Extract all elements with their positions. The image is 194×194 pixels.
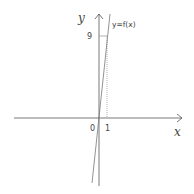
y-axis-label: y xyxy=(77,11,85,25)
y-tick-label: 9 xyxy=(87,32,92,41)
x-tick-label: 1 xyxy=(105,124,110,133)
origin-label: 0 xyxy=(90,124,95,133)
graph-canvas: y x 0 1 9 y=f(x) xyxy=(0,0,194,194)
x-axis-label: x xyxy=(174,125,181,139)
curve-label: y=f(x) xyxy=(112,20,136,29)
